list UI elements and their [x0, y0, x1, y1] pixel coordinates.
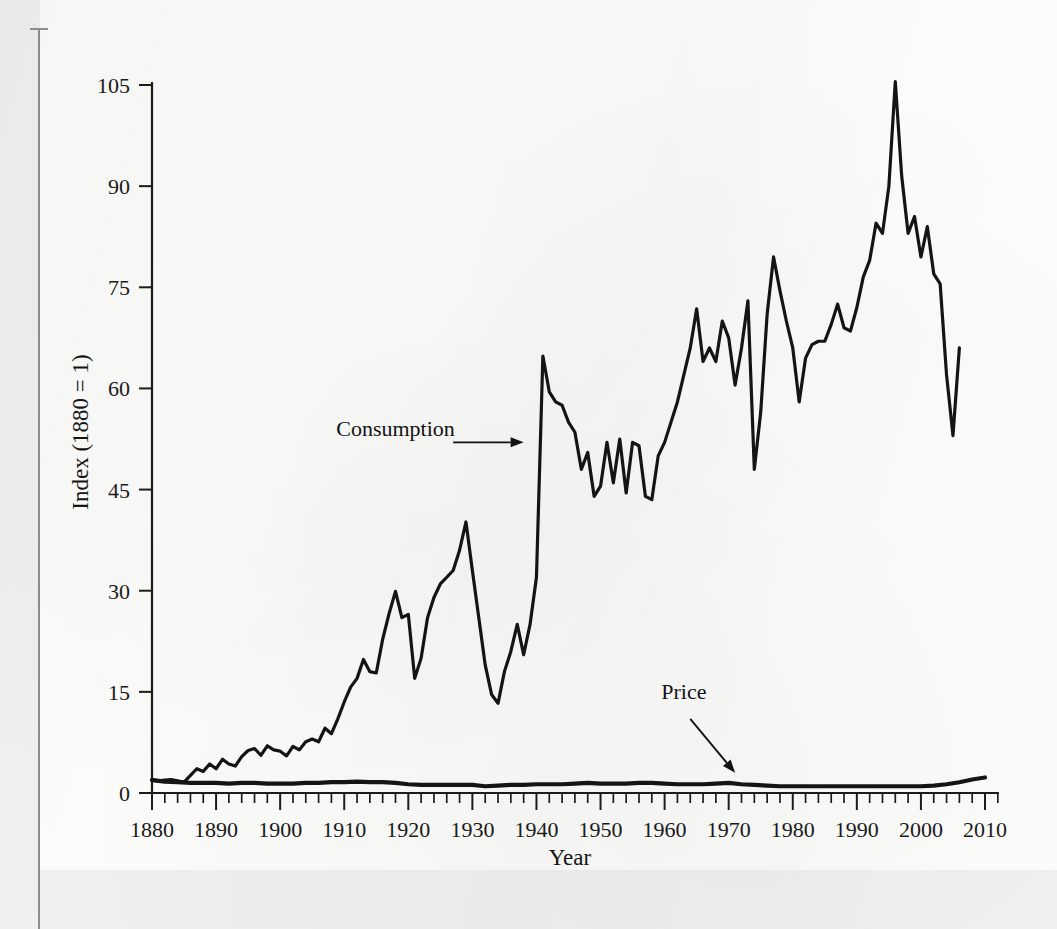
y-tick-label: 105	[97, 73, 130, 98]
y-axis-tick-labels: 0153045607590105	[97, 73, 130, 806]
x-tick-label: 1910	[322, 817, 366, 842]
line-chart: 0153045607590105 18801890190019101920193…	[0, 0, 1057, 929]
y-tick-label: 15	[108, 680, 130, 705]
consumption-annotation-arrow-head	[511, 437, 524, 447]
x-axis-tick-labels: 1880189019001910192019301940195019601970…	[130, 817, 1007, 842]
y-tick-label: 60	[108, 376, 130, 401]
x-tick-label: 1980	[771, 817, 815, 842]
x-tick-label: 1950	[579, 817, 623, 842]
price-annotation-arrow-shaft	[690, 719, 727, 763]
y-axis-title: Index (1880 = 1)	[68, 354, 93, 509]
x-axis-title: Year	[549, 845, 592, 870]
x-tick-label: 1900	[258, 817, 302, 842]
x-tick-label: 1960	[643, 817, 687, 842]
y-axis-ticks	[139, 85, 152, 793]
y-axis: 0153045607590105	[97, 73, 152, 806]
x-axis-major-ticks	[152, 793, 985, 810]
x-tick-label: 1970	[707, 817, 751, 842]
price-annotation-label: Price	[661, 679, 706, 704]
y-tick-label: 30	[108, 579, 130, 604]
y-tick-label: 90	[108, 174, 130, 199]
x-tick-label: 2010	[963, 817, 1007, 842]
y-tick-label: 75	[108, 275, 130, 300]
x-tick-label: 1880	[130, 817, 174, 842]
data-series-group	[152, 82, 985, 787]
y-tick-label: 45	[108, 478, 130, 503]
series-line-price	[152, 777, 985, 786]
chart-figure: 0153045607590105 18801890190019101920193…	[0, 0, 1057, 929]
x-tick-label: 1890	[194, 817, 238, 842]
x-tick-label: 2000	[899, 817, 943, 842]
x-axis: 1880189019001910192019301940195019601970…	[130, 793, 1007, 842]
x-tick-label: 1920	[386, 817, 430, 842]
y-tick-label: 0	[119, 781, 130, 806]
x-axis-minor-ticks	[165, 793, 998, 803]
series-line-consumption	[152, 82, 959, 783]
consumption-annotation-label: Consumption	[336, 416, 455, 441]
x-tick-label: 1930	[450, 817, 494, 842]
x-tick-label: 1940	[514, 817, 558, 842]
x-tick-label: 1990	[835, 817, 879, 842]
